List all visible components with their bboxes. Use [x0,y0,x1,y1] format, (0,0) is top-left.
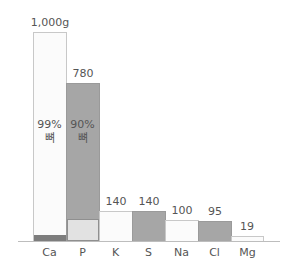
annotation-p-percent: 90% [66,118,99,132]
x-axis-baseline [18,241,280,242]
bar-k [99,211,133,242]
category-label-s: S [132,246,165,259]
value-label-ca: 1,000g [25,16,75,29]
bar-p-rest-segment [67,219,99,241]
value-label-mg: 19 [222,220,272,233]
category-label-k: K [99,246,132,259]
category-label-na: Na [165,246,198,259]
value-label-cl: 95 [190,205,240,218]
annotation-ca-percent: 99% [33,118,66,132]
category-label-mg: Mg [231,246,264,259]
bar-p [66,83,100,242]
category-label-ca: Ca [33,246,66,259]
annotation-ca-bone: 뼈 [33,132,66,146]
value-label-p: 780 [58,67,108,80]
category-label-cl: Cl [198,246,231,259]
mineral-bar-chart: 1,000g 99% 뼈 780 90% 뼈 140 140 100 95 19… [0,0,298,280]
annotation-p-bone: 뼈 [66,132,99,146]
bar-na [165,220,199,242]
category-label-p: P [66,246,99,259]
